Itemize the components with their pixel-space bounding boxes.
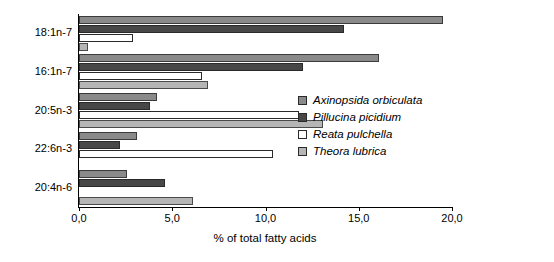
chart-container: 18:1n-716:1n-720:5n-322:6n-320:4n-60,05,… [0, 0, 554, 262]
bar [79, 63, 303, 71]
legend-label-reata-pulchella: Reata pulchella [313, 126, 392, 143]
legend-item: Axinopsida orbiculata [298, 92, 422, 109]
bar [79, 72, 202, 80]
x-axis-tick-label: 10,0 [255, 212, 276, 224]
bar [79, 54, 379, 62]
bar [79, 197, 193, 205]
bar [79, 179, 165, 187]
x-axis-label: % of total fatty acids [78, 232, 452, 244]
bar [79, 120, 323, 128]
legend-label-axinopsida-orbiculata: Axinopsida orbiculata [313, 92, 422, 109]
x-axis-tick [172, 207, 173, 211]
legend-item: Reata pulchella [298, 126, 422, 143]
y-axis-tick-label: 20:4n-6 [2, 181, 72, 193]
legend-swatch-theora-lubrica [298, 147, 307, 156]
bar [79, 141, 120, 149]
x-axis-tick-label: 0,0 [71, 212, 86, 224]
bar [79, 93, 157, 101]
bar [79, 102, 150, 110]
legend-swatch-reata-pulchella [298, 130, 307, 139]
x-axis-tick-label: 5,0 [165, 212, 180, 224]
bar-group: 20:4n-6 [79, 170, 452, 205]
x-axis-tick [79, 207, 80, 211]
y-axis-tick-label: 20:5n-3 [2, 104, 72, 116]
y-axis-tick-label: 16:1n-7 [2, 65, 72, 77]
y-axis-tick-label: 18:1n-7 [2, 26, 72, 38]
legend-item: Pillucina picidium [298, 109, 422, 126]
x-axis-tick [452, 207, 453, 211]
bar [79, 25, 344, 33]
legend-swatch-pillucina-picidium [298, 113, 307, 122]
bar [79, 132, 137, 140]
x-axis-tick-label: 20,0 [441, 212, 462, 224]
bar [79, 34, 133, 42]
legend-label-theora-lubrica: Theora lubrica [313, 143, 387, 160]
legend-swatch-axinopsida-orbiculata [298, 96, 307, 105]
chart-legend: Axinopsida orbiculata Pillucina picidium… [298, 92, 422, 160]
x-axis-tick [266, 207, 267, 211]
bar [79, 150, 273, 158]
x-axis-tick [359, 207, 360, 211]
bar [79, 43, 88, 51]
bar [79, 170, 127, 178]
bar-group: 18:1n-7 [79, 16, 452, 51]
legend-item: Theora lubrica [298, 143, 422, 160]
y-axis-tick-label: 22:6n-3 [2, 142, 72, 154]
bar [79, 16, 443, 24]
bar [79, 111, 299, 119]
legend-label-pillucina-picidium: Pillucina picidium [313, 109, 401, 126]
bar-group: 16:1n-7 [79, 54, 452, 89]
bar [79, 81, 208, 89]
x-axis-tick-label: 15,0 [348, 212, 369, 224]
